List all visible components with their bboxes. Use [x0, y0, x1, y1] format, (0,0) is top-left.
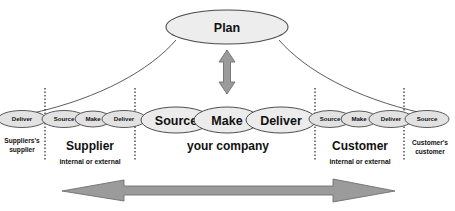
make-label-customer: Make	[351, 115, 367, 122]
plan-right-curve	[279, 40, 422, 113]
source-label-company: Source	[155, 114, 197, 128]
vertical-double-arrow-shape	[219, 50, 235, 94]
scor-diagram: Plan Deliver Source Make Deliver	[0, 0, 455, 211]
section-title-customers-customer-line1: Customer's	[412, 139, 448, 146]
make-label-company: Make	[211, 114, 242, 128]
plan-label: Plan	[214, 21, 240, 35]
section-subtitle-supplier: internal or external	[59, 158, 120, 165]
process-node-customers-customer-source[interactable]: Source	[405, 111, 449, 128]
plan-link-arrow	[219, 50, 235, 94]
source-label-right: Source	[417, 115, 438, 122]
section-title-your-company: your company	[187, 139, 269, 153]
make-label-supplier: Make	[85, 115, 101, 122]
process-node-supplier-deliver[interactable]: Deliver	[102, 111, 146, 128]
source-label-customer: Source	[320, 115, 341, 122]
supply-chain-flow-arrow	[62, 179, 395, 202]
process-node-suppliers-supplier-deliver[interactable]: Deliver	[0, 111, 46, 128]
plan-left-curve	[33, 40, 176, 113]
source-label-supplier: Source	[54, 115, 75, 122]
deliver-label-company: Deliver	[260, 114, 302, 128]
horizontal-double-arrow-shape	[62, 179, 395, 202]
section-title-suppliers-supplier-line2: supplier	[9, 146, 35, 154]
section-title-customer: Customer	[332, 139, 388, 153]
plan-node[interactable]: Plan	[166, 10, 288, 44]
process-node-company-deliver[interactable]: Deliver	[246, 107, 316, 133]
section-title-customers-customer-line2: customer	[415, 148, 445, 155]
section-title-suppliers-supplier-line1: Suppliers's	[4, 137, 40, 145]
section-subtitle-customer: internal or external	[329, 158, 390, 165]
scor-diagram-canvas: Plan Deliver Source Make Deliver	[0, 0, 455, 211]
deliver-label-left: Deliver	[12, 115, 33, 122]
section-title-supplier: Supplier	[66, 139, 114, 153]
deliver-label-customer: Deliver	[381, 115, 402, 122]
deliver-label-supplier: Deliver	[114, 115, 135, 122]
